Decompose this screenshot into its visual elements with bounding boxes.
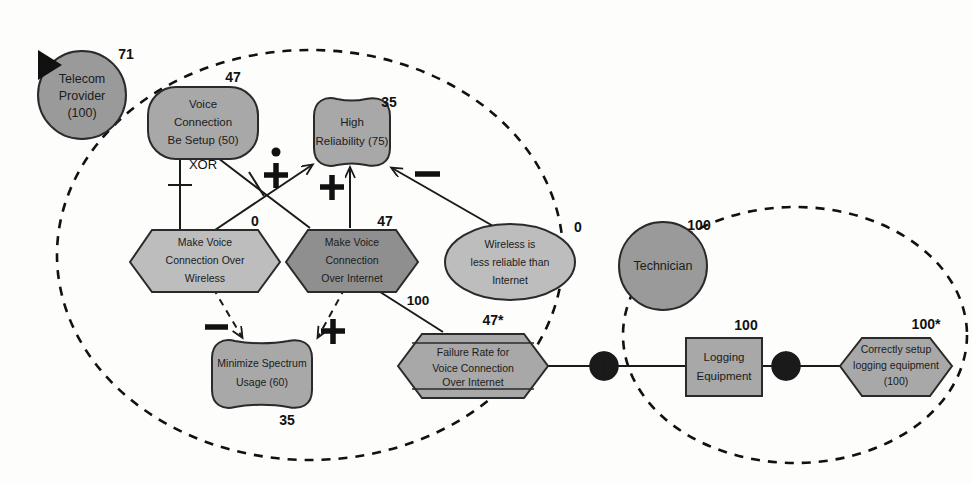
goal-voice-line1: Voice <box>189 98 217 110</box>
contribution-symbol-help-spectrum-icon <box>321 319 345 344</box>
link-dependency-failure-logging[interactable] <box>548 352 686 380</box>
softgoal-minimize-spectrum-usage[interactable]: Minimize Spectrum Usage (60) <box>212 340 312 408</box>
indicator-failure-line3: Over Internet <box>442 376 503 388</box>
indicator-correctly-setup-logging-equipment[interactable]: Correctly setup logging equipment (100) <box>840 338 952 396</box>
eval-telecom-provider: 71 <box>118 46 134 62</box>
link-contribution-wireless-high-reliability[interactable] <box>212 165 312 232</box>
belief-line3: Internet <box>492 274 528 286</box>
eval-high-reliability: 35 <box>381 94 397 110</box>
dependency-d-icon-2-fill <box>772 352 786 380</box>
eval-technician: 100 <box>687 217 711 233</box>
contribution-symbol-make-icon <box>264 148 288 189</box>
softgoal-spectrum-line1: Minimize Spectrum <box>217 357 307 369</box>
resource-logging-equipment[interactable]: Logging Equipment <box>686 338 762 396</box>
softgoal-reliability-line2: Reliability (75) <box>316 135 389 147</box>
eval-logging-equipment: 100 <box>734 317 758 333</box>
indicator-correct-line2: logging equipment <box>853 359 939 371</box>
task-wireless-line2: Connection Over <box>166 254 245 266</box>
actor-telecom-provider-line3: (100) <box>67 106 96 120</box>
eval-make-voice-over-wireless: 0 <box>251 213 259 229</box>
task-internet-line3: Over Internet <box>321 272 382 284</box>
eval-failure-rate: 47* <box>482 312 504 328</box>
task-make-voice-connection-over-wireless[interactable]: Make Voice Connection Over Wireless <box>130 230 280 292</box>
eval-minimize-spectrum: 35 <box>279 412 295 428</box>
resource-logging-line2: Equipment <box>697 370 753 382</box>
task-wireless-line1: Make Voice <box>178 236 232 248</box>
task-make-voice-connection-over-internet[interactable]: Make Voice Connection Over Internet <box>286 230 418 292</box>
softgoal-reliability-line1: High <box>340 116 364 128</box>
goal-voice-line2: Connection <box>174 116 232 128</box>
dependency-d-icon-2 <box>786 352 800 380</box>
eval-voice-connection-be-setup: 47 <box>225 69 241 85</box>
decomposition-label-xor: XOR <box>189 157 217 172</box>
grl-diagram[interactable]: Telecom Provider (100) 71 Voice Connecti… <box>0 0 972 484</box>
indicator-correct-line3: (100) <box>884 375 909 387</box>
link-dependency-logging-correctly-setup[interactable] <box>762 352 840 380</box>
actor-telecom-provider-line2: Provider <box>59 89 106 103</box>
goal-voice-connection-be-setup[interactable]: Voice Connection Be Setup (50) <box>148 87 258 159</box>
dependency-d-icon-fill <box>590 352 604 380</box>
indicator-failure-line2: Voice Connection <box>432 362 514 374</box>
link-decomposition-internet[interactable] <box>218 158 310 228</box>
goal-voice-line3: Be Setup (50) <box>168 134 239 146</box>
diagram-canvas[interactable]: Telecom Provider (100) 71 Voice Connecti… <box>0 0 972 484</box>
eval-make-voice-over-internet: 47 <box>377 213 393 229</box>
belief-line2: less reliable than <box>471 256 550 268</box>
resource-logging-line1: Logging <box>704 351 745 363</box>
indicator-failure-rate-voice-connection-over-internet[interactable]: Failure Rate for Voice Connection Over I… <box>398 334 548 398</box>
task-wireless-line3: Wireless <box>185 272 225 284</box>
task-internet-line2: Connection <box>325 254 378 266</box>
softgoal-spectrum-line2: Usage (60) <box>236 376 288 388</box>
dependency-d-icon <box>604 352 618 380</box>
actor-technician-label: Technician <box>633 259 692 273</box>
eval-belief-wireless: 0 <box>574 219 582 235</box>
belief-wireless-less-reliable[interactable]: Wireless is less reliable than Internet <box>445 224 575 300</box>
belief-line1: Wireless is <box>485 238 536 250</box>
actor-telecom-provider-line1: Telecom <box>59 72 106 86</box>
eval-correctly-setup: 100* <box>912 316 941 332</box>
softgoal-high-reliability[interactable]: High Reliability (75) <box>314 98 390 166</box>
task-internet-line1: Make Voice <box>325 236 379 248</box>
indicator-failure-line1: Failure Rate for <box>437 346 510 358</box>
link-label-contrib-100: 100 <box>407 293 430 308</box>
indicator-correct-line1: Correctly setup <box>861 343 932 355</box>
actor-technician[interactable]: Technician <box>619 222 707 310</box>
link-contribution-belief-high-reliability[interactable] <box>392 168 500 230</box>
contribution-symbol-help-icon <box>320 175 344 200</box>
